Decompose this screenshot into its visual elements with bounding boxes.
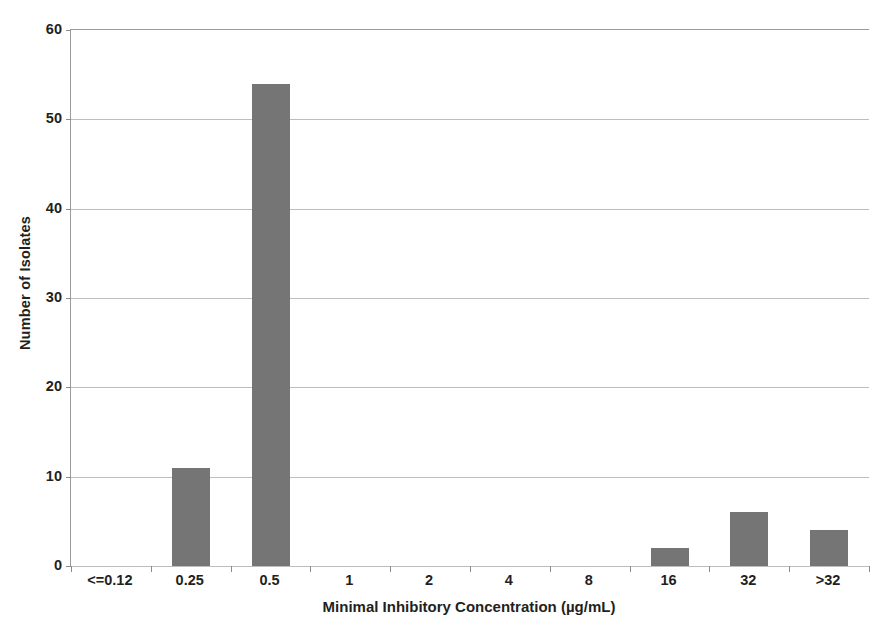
plot-area bbox=[70, 29, 869, 566]
y-axis-tick-mark bbox=[66, 477, 71, 478]
gridline bbox=[71, 209, 869, 210]
x-axis-tick-label: <=0.12 bbox=[70, 572, 150, 589]
y-axis-tick-label: 60 bbox=[28, 22, 62, 37]
y-axis-tick-mark bbox=[66, 30, 71, 31]
y-axis-tick-label: 40 bbox=[28, 200, 62, 215]
y-axis-tick-mark bbox=[66, 209, 71, 210]
x-axis-tick-labels: <=0.120.250.512481632>32 bbox=[70, 572, 868, 596]
y-axis-tick-label: 20 bbox=[28, 379, 62, 394]
bar bbox=[172, 468, 210, 566]
y-axis-tick-mark bbox=[66, 298, 71, 299]
y-axis-tick-labels: 0102030405060 bbox=[20, 0, 62, 636]
bar bbox=[651, 548, 689, 566]
x-axis-tick-mark bbox=[869, 566, 870, 572]
y-axis-tick-mark bbox=[66, 387, 71, 388]
bar bbox=[730, 512, 768, 566]
bar bbox=[810, 530, 848, 566]
x-axis-title: Minimal Inhibitory Concentration (µg/mL) bbox=[70, 598, 868, 615]
gridline bbox=[71, 298, 869, 299]
x-axis-tick-label: 0.25 bbox=[150, 572, 230, 589]
x-axis-tick-label: 2 bbox=[389, 572, 469, 589]
x-axis-tick-label: 1 bbox=[309, 572, 389, 589]
y-axis-tick-mark bbox=[66, 119, 71, 120]
y-axis-tick-label: 50 bbox=[28, 111, 62, 126]
y-axis-tick-label: 30 bbox=[28, 290, 62, 305]
x-axis-tick-label: 32 bbox=[708, 572, 788, 589]
x-axis-tick-label: 4 bbox=[469, 572, 549, 589]
x-axis-tick-label: 16 bbox=[629, 572, 709, 589]
bar bbox=[252, 84, 290, 566]
y-axis-tick-label: 0 bbox=[28, 558, 62, 573]
y-axis-tick-label: 10 bbox=[28, 468, 62, 483]
x-axis-tick-label: 0.5 bbox=[230, 572, 310, 589]
x-axis-tick-label: >32 bbox=[788, 572, 868, 589]
x-axis-tick-label: 8 bbox=[549, 572, 629, 589]
gridline bbox=[71, 387, 869, 388]
bar-chart: Number of Isolates 0102030405060 <=0.120… bbox=[0, 0, 896, 636]
gridline bbox=[71, 119, 869, 120]
